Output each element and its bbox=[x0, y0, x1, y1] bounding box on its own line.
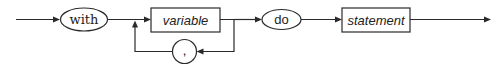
with-label: with bbox=[70, 12, 100, 27]
do-terminal: do bbox=[262, 10, 301, 30]
variable-nonterminal: variable bbox=[151, 8, 220, 32]
statement-nonterminal: statement bbox=[342, 8, 410, 32]
variable-label: variable bbox=[163, 13, 209, 28]
entry-arrow bbox=[16, 17, 60, 23]
exit-arrow bbox=[410, 17, 491, 23]
with-terminal: with bbox=[61, 8, 108, 31]
variable-to-do-arrow bbox=[234, 17, 262, 23]
comma-terminal: , bbox=[173, 40, 197, 64]
do-label: do bbox=[274, 12, 288, 27]
with-to-variable-arrow bbox=[108, 17, 152, 23]
with-statement-syntax-diagram: with variable , do statement bbox=[0, 0, 504, 71]
comma-label: , bbox=[183, 43, 187, 58]
statement-label: statement bbox=[347, 13, 405, 28]
do-to-statement-arrow bbox=[301, 17, 342, 23]
